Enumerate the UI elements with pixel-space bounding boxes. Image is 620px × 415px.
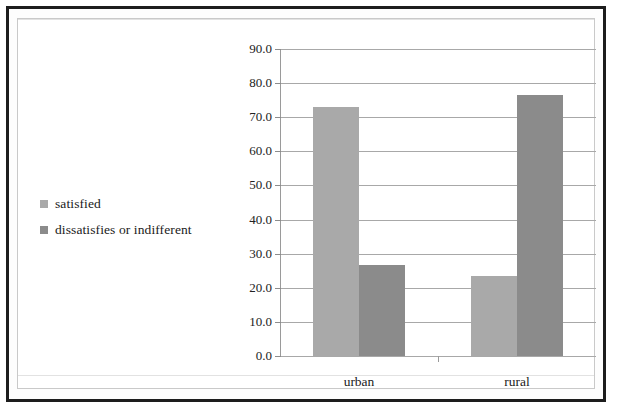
y-axis-tick-labels: 90.080.070.060.050.040.030.020.010.00.0 <box>226 49 272 356</box>
x-axis-category-label: rural <box>504 374 529 390</box>
legend-item-dissatisfied: dissatisfies or indifferent <box>40 217 250 243</box>
bar-urban-dissatisfies <box>359 265 405 356</box>
plot-region: 90.080.070.060.050.040.030.020.010.00.0 … <box>226 49 596 389</box>
y-axis-tick-mark <box>275 117 281 118</box>
y-axis-tick-label: 30.0 <box>249 246 272 262</box>
x-axis-center-tick <box>438 356 439 362</box>
bar-chart: satisfied dissatisfies or indifferent 90… <box>18 19 602 396</box>
y-axis-tick-label: 90.0 <box>249 41 272 57</box>
y-axis-tick-label: 10.0 <box>249 314 272 330</box>
y-axis-tick-mark <box>275 151 281 152</box>
y-axis-tick-mark <box>275 220 281 221</box>
bar-rural-dissatisfies <box>517 95 563 356</box>
y-axis-tick-label: 50.0 <box>249 177 272 193</box>
chart-legend: satisfied dissatisfies or indifferent <box>40 191 250 243</box>
legend-item-satisfied: satisfied <box>40 191 250 217</box>
y-axis-tick-label: 80.0 <box>249 75 272 91</box>
legend-swatch-icon-dissatisfied <box>40 226 48 234</box>
legend-label-dissatisfied: dissatisfies or indifferent <box>55 222 192 238</box>
document-inner-frame: satisfied dissatisfies or indifferent 90… <box>17 18 595 389</box>
y-axis-tick-label: 70.0 <box>249 109 272 125</box>
legend-swatch-icon-satisfied <box>40 200 48 208</box>
y-axis-tick-mark <box>275 49 281 50</box>
x-axis-category-label: urban <box>344 374 375 390</box>
x-axis: urbanrural <box>280 356 596 396</box>
y-axis-tick-mark <box>275 288 281 289</box>
y-axis-tick-label: 0.0 <box>256 348 272 364</box>
y-axis-tick-mark <box>275 185 281 186</box>
bar-urban-satisfied <box>313 107 359 356</box>
y-axis-tick-mark <box>275 83 281 84</box>
document-page-frame: satisfied dissatisfies or indifferent 90… <box>6 6 606 402</box>
y-axis-tick-label: 20.0 <box>249 280 272 296</box>
bars-layer <box>280 49 596 356</box>
y-axis-tick-mark <box>275 322 281 323</box>
plot-box <box>280 49 596 356</box>
y-axis-tick-label: 40.0 <box>249 212 272 228</box>
bar-rural-satisfied <box>471 276 517 356</box>
y-axis-tick-label: 60.0 <box>249 143 272 159</box>
y-axis-tick-mark <box>275 254 281 255</box>
legend-label-satisfied: satisfied <box>55 196 101 212</box>
